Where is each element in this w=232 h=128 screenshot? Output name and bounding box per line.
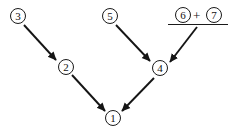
- edge-n5-to-n4: [116, 25, 150, 61]
- edge-rule-to-n4: [170, 27, 197, 62]
- node-7[interactable]: 7: [206, 7, 222, 23]
- node-6[interactable]: 6: [175, 7, 191, 23]
- node-3[interactable]: 3: [10, 8, 26, 24]
- edge-n4-to-n1: [122, 78, 154, 111]
- diagram-canvas: 3 2 1 5 4 6 7 +: [0, 0, 232, 128]
- expression-rule: [168, 24, 228, 25]
- node-5[interactable]: 5: [102, 8, 118, 24]
- edge-n2-to-n1: [72, 75, 105, 111]
- plus-operator: +: [193, 9, 200, 22]
- node-4[interactable]: 4: [152, 60, 168, 76]
- node-2[interactable]: 2: [58, 59, 74, 75]
- edge-n3-to-n2: [24, 25, 56, 60]
- node-1[interactable]: 1: [105, 110, 121, 126]
